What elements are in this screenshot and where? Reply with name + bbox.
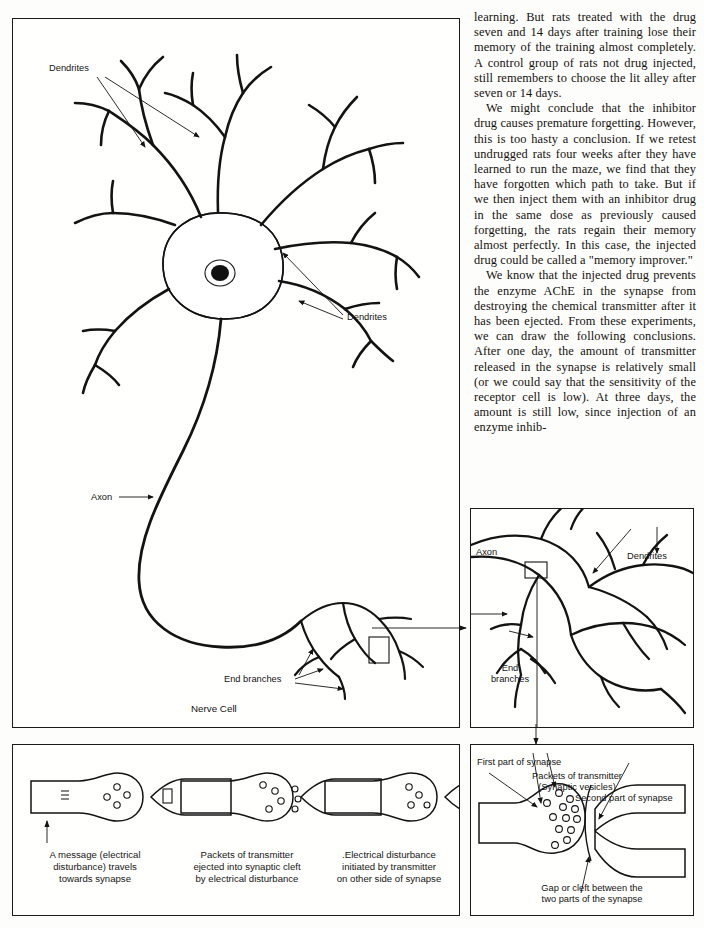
paragraph-1: learning. But rats treated with the drug…	[474, 10, 696, 101]
label-gap-or-cleft: Gap or cleft between the two parts of th…	[517, 883, 667, 905]
caption-nerve-cell: Nerve Cell	[191, 703, 237, 714]
document-page: learning. But rats treated with the drug…	[0, 0, 704, 928]
stage-2	[181, 773, 381, 821]
label-end-branches-detail: End branches	[479, 663, 541, 685]
label-packets-of-transmitter: Packets of transmitter (Synaptic vesicle…	[517, 771, 637, 793]
end-branch-drawing	[471, 509, 693, 727]
label-first-part-of-synapse: First part of synapse	[477, 757, 561, 768]
stage-1	[31, 773, 231, 843]
paragraph-2: We might conclude that the inhibitor dru…	[474, 101, 696, 268]
figure-synapse-detail: First part of synapse Packets of transmi…	[470, 744, 694, 916]
stage-3	[325, 773, 459, 843]
cell-body	[163, 213, 283, 319]
figure-end-branch-detail: Axon Dendrites End branches	[470, 508, 694, 728]
label-dendrites-top: Dendrites	[49, 63, 89, 74]
stage-caption-1: A message (electrical disturbance) trave…	[25, 849, 165, 886]
label-dendrites-right: Dendrites	[347, 312, 387, 323]
paragraph-3: We know that the injected drug prevents …	[474, 268, 696, 435]
detail-region-box	[525, 562, 547, 578]
label-end-branches: End branches	[224, 674, 281, 685]
stage-caption-3: .Electrical disturbance initiated by tra…	[319, 849, 459, 886]
synapse-stages-drawing	[13, 745, 459, 915]
label-axon: Axon	[91, 492, 112, 503]
label-second-part-of-synapse: Second part of synapse	[575, 793, 673, 804]
axon-fibre	[139, 319, 301, 647]
label-axon-detail: Axon	[476, 547, 497, 558]
article-text-column: learning. But rats treated with the drug…	[474, 10, 696, 436]
nucleus	[211, 265, 229, 281]
stage-caption-2: Packets of transmitter ejected into syna…	[171, 849, 323, 886]
figure-synapse-stages: A message (electrical disturbance) trave…	[12, 744, 460, 916]
label-dendrites-detail: Dendrites	[627, 551, 667, 562]
detail-connector-arrow	[370, 616, 476, 640]
